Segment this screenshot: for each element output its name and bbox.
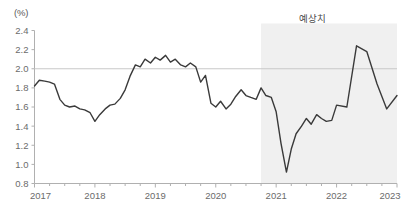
svg-text:2023: 2023 bbox=[379, 190, 400, 201]
svg-text:1.4: 1.4 bbox=[15, 121, 28, 132]
svg-text:2017: 2017 bbox=[30, 190, 51, 201]
svg-text:1.8: 1.8 bbox=[15, 82, 28, 93]
svg-text:1.6: 1.6 bbox=[15, 101, 28, 112]
svg-text:2019: 2019 bbox=[145, 190, 166, 201]
svg-text:2.2: 2.2 bbox=[15, 44, 28, 55]
line-chart-plot: 0.81.01.21.41.61.82.02.22.4 201720182019… bbox=[0, 0, 403, 219]
x-axis-tick-marks bbox=[35, 184, 398, 188]
svg-text:2.0: 2.0 bbox=[15, 63, 28, 74]
x-axis-tick-labels: 2017201820192020202120222023 bbox=[30, 190, 401, 201]
svg-text:1.2: 1.2 bbox=[15, 140, 28, 151]
svg-text:2018: 2018 bbox=[84, 190, 105, 201]
svg-text:2.4: 2.4 bbox=[15, 25, 28, 36]
y-axis-tick-labels: 0.81.01.21.41.61.82.02.22.4 bbox=[15, 25, 28, 189]
chart-container: (%) 예상치 0.81.01.21.41.61.82.02.22.4 2017… bbox=[0, 0, 403, 219]
svg-text:2020: 2020 bbox=[205, 190, 226, 201]
forecast-shading bbox=[261, 24, 397, 184]
svg-text:0.8: 0.8 bbox=[15, 178, 28, 189]
svg-text:2022: 2022 bbox=[326, 190, 347, 201]
svg-text:1.0: 1.0 bbox=[15, 159, 28, 170]
svg-text:2021: 2021 bbox=[266, 190, 287, 201]
